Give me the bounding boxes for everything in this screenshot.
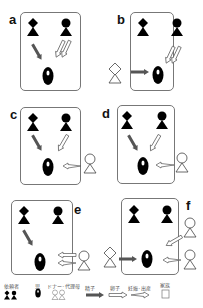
legend-egg-icon [109,292,127,298]
legend-sperm-icon [86,292,104,298]
legend-donor-icon [52,290,65,300]
legend-pregnancy-label: 妊娠･出産 [128,286,151,291]
egg-arrow-icon [58,252,76,258]
sperm-arrow-icon [126,134,140,153]
panel-b [109,18,183,84]
legend-egg-label: 卵子 [110,286,120,291]
child-icon [138,157,149,175]
legend-sperm-label: 精子 [85,286,95,291]
legend-client-label: 依頼者 [4,284,19,289]
legend-client-icon [4,291,17,300]
male-client-icon [156,112,168,130]
male-client-icon [161,206,173,224]
female-donor-icon [109,63,121,83]
child-icon [153,66,164,84]
female-client-icon [121,111,133,129]
female-donor-icon [104,247,116,267]
panel-c [27,113,96,176]
child-icon [43,158,54,176]
legend-pregnancy-icon [131,292,149,298]
sperm-arrow-icon [21,229,35,248]
panel-f [104,205,196,269]
panel-e [18,206,90,271]
male-client-icon [60,114,72,132]
male-client-icon [52,207,64,225]
legend-child-icon [35,289,41,298]
surrogate-icon [176,153,188,172]
sperm-arrow-icon [30,134,44,153]
egg-arrow-icon [148,134,162,153]
panel-d [121,111,188,175]
female-client-icon [27,18,39,36]
egg-arrow-icon [56,134,70,153]
panel-a [27,18,73,85]
egg-donor-icon [184,218,196,237]
legend-child-label: 児 [35,284,40,289]
surrogate-donor-icon [78,251,90,270]
pregnancy-arrow-icon [58,260,76,266]
sperm-arrow-icon [30,43,44,62]
female-client-icon [18,206,30,224]
legend-family-label: 家族 [160,283,170,288]
child-icon [142,250,153,268]
female-client-icon [128,205,140,223]
surrogate-icon [84,154,96,173]
sperm-arrow-icon [131,69,149,75]
surrogate-icon [184,250,196,269]
pregnancy-arrow-icon [156,162,174,168]
male-client-icon [171,19,183,37]
pregnancy-arrow-icon [63,163,81,169]
legend-family-icon [162,290,169,298]
pregnancy-arrow-icon [163,257,181,263]
child-icon [43,67,54,85]
egg-arrow-icon [165,234,184,248]
male-client-icon [60,19,72,37]
child-icon [35,253,46,271]
legend-donor-label: ドナー･代理母 [47,284,80,289]
sperm-arrow-icon [119,256,137,262]
female-client-icon [137,18,149,36]
female-client-icon [27,113,39,131]
